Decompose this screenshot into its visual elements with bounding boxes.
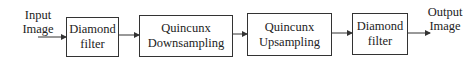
block-label-line-1: Quincunx <box>259 20 320 35</box>
input-label-line-2: Image <box>18 22 58 36</box>
block-label-line-1: Quincunx <box>148 21 224 36</box>
quincunx-upsampling-block: Quincunx Upsampling <box>247 13 332 56</box>
block-label-line-2: filter <box>69 37 116 52</box>
block-label-line-2: Downsampling <box>148 36 224 51</box>
output-label-line-1: Output <box>420 5 470 19</box>
block-label-line-1: Diamond <box>69 22 116 37</box>
input-label-line-1: Input <box>18 8 58 22</box>
input-image-label: Input Image <box>18 8 58 36</box>
output-label-line-2: Image <box>420 19 470 33</box>
diamond-filter-block-2: Diamond filter <box>352 13 408 55</box>
output-image-label: Output Image <box>420 5 470 33</box>
block-label-line-2: Upsampling <box>259 35 320 50</box>
diamond-filter-block-1: Diamond filter <box>66 17 119 57</box>
block-label-line-2: filter <box>357 34 404 49</box>
quincunx-downsampling-block: Quincunx Downsampling <box>139 15 233 57</box>
block-label-line-1: Diamond <box>357 19 404 34</box>
